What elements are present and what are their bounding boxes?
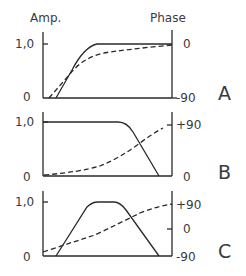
panel-c-phase-tick-bottom: -90 [176,251,196,263]
panel-a-plot [43,30,177,98]
panel-b-phase-tick-top: +90 [176,119,201,131]
panel-c-amp-tick-max: 1,0 [15,196,34,208]
panel-c-plot [43,191,172,256]
panel-b-plot [43,112,172,176]
panel-c-amp-tick-zero: 0 [23,251,31,263]
panel-b-phase-tick-bottom: 0 [183,171,191,183]
panel-a-amp-tick-max: 1,0 [15,38,34,50]
panel-b-amp-tick-zero: 0 [23,171,31,183]
panel-b-amplitude-curve [43,122,159,176]
panel-a-phase-tick-bottom: -90 [176,92,196,104]
panel-a-phase-tick-top: 0 [183,38,191,50]
diagram-canvas [0,0,246,276]
panel-b-amp-tick-max: 1,0 [15,116,34,128]
panel-c-phase-tick-mid: 0 [183,223,191,235]
panel-a-amp-tick-zero: 0 [23,91,31,103]
panel-b-label: B [218,163,231,182]
panel-c-phase-tick-top: +90 [176,199,201,211]
panel-a-phase-curve [49,45,172,98]
panel-c-label: C [218,242,231,261]
panel-a-label: A [218,84,231,103]
